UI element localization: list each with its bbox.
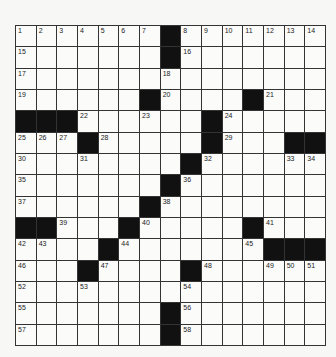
grid-cell[interactable]: 36 [181,175,201,195]
grid-cell[interactable]: 17 [16,69,36,89]
grid-cell[interactable] [99,303,119,323]
grid-cell[interactable] [223,218,243,238]
grid-cell[interactable]: 44 [119,239,139,259]
grid-cell[interactable] [202,197,222,217]
grid-cell[interactable]: 57 [16,325,36,345]
grid-cell[interactable] [161,261,181,281]
grid-cell[interactable] [305,282,325,302]
grid-cell[interactable] [285,303,305,323]
grid-cell[interactable] [140,282,160,302]
grid-cell[interactable] [78,197,98,217]
grid-cell[interactable]: 25 [16,133,36,153]
grid-cell[interactable]: 30 [16,154,36,174]
grid-cell[interactable] [78,239,98,259]
grid-cell[interactable] [264,282,284,302]
grid-cell[interactable] [140,69,160,89]
grid-cell[interactable]: 29 [223,133,243,153]
grid-cell[interactable] [99,218,119,238]
grid-cell[interactable] [305,69,325,89]
grid-cell[interactable] [140,303,160,323]
grid-cell[interactable]: 1 [16,26,36,46]
grid-cell[interactable]: 33 [285,154,305,174]
grid-cell[interactable]: 23 [140,111,160,131]
grid-cell[interactable] [78,303,98,323]
grid-cell[interactable]: 28 [99,133,119,153]
grid-cell[interactable] [223,282,243,302]
grid-cell[interactable]: 7 [140,26,160,46]
grid-cell[interactable]: 5 [99,26,119,46]
grid-cell[interactable] [99,154,119,174]
grid-cell[interactable] [140,133,160,153]
grid-cell[interactable] [119,154,139,174]
grid-cell[interactable] [264,69,284,89]
grid-cell[interactable] [99,197,119,217]
grid-cell[interactable] [37,303,57,323]
grid-cell[interactable] [57,325,77,345]
grid-cell[interactable] [119,47,139,67]
grid-cell[interactable] [37,69,57,89]
grid-cell[interactable] [78,69,98,89]
grid-cell[interactable] [243,325,263,345]
grid-cell[interactable] [181,197,201,217]
grid-cell[interactable] [223,325,243,345]
grid-cell[interactable]: 58 [181,325,201,345]
grid-cell[interactable] [264,303,284,323]
grid-cell[interactable] [264,111,284,131]
grid-cell[interactable]: 37 [16,197,36,217]
grid-cell[interactable] [202,175,222,195]
grid-cell[interactable] [181,133,201,153]
grid-cell[interactable] [99,90,119,110]
grid-cell[interactable] [223,261,243,281]
grid-cell[interactable] [223,47,243,67]
grid-cell[interactable] [99,111,119,131]
grid-cell[interactable]: 26 [37,133,57,153]
grid-cell[interactable] [223,197,243,217]
grid-cell[interactable] [223,90,243,110]
grid-cell[interactable] [161,239,181,259]
grid-cell[interactable] [119,261,139,281]
grid-cell[interactable] [305,218,325,238]
grid-cell[interactable] [57,47,77,67]
grid-cell[interactable] [285,325,305,345]
grid-cell[interactable]: 19 [16,90,36,110]
grid-cell[interactable]: 2 [37,26,57,46]
grid-cell[interactable]: 52 [16,282,36,302]
grid-cell[interactable] [119,90,139,110]
grid-cell[interactable]: 48 [202,261,222,281]
grid-cell[interactable] [57,303,77,323]
grid-cell[interactable] [161,282,181,302]
grid-cell[interactable] [37,175,57,195]
grid-cell[interactable] [78,325,98,345]
grid-cell[interactable] [243,261,263,281]
grid-cell[interactable] [161,154,181,174]
grid-cell[interactable] [305,175,325,195]
grid-cell[interactable] [285,282,305,302]
grid-cell[interactable] [78,47,98,67]
grid-cell[interactable] [161,218,181,238]
grid-cell[interactable] [264,154,284,174]
grid-cell[interactable]: 56 [181,303,201,323]
grid-cell[interactable] [140,239,160,259]
grid-cell[interactable] [181,69,201,89]
grid-cell[interactable]: 34 [305,154,325,174]
grid-cell[interactable] [285,90,305,110]
grid-cell[interactable]: 54 [181,282,201,302]
grid-cell[interactable] [181,111,201,131]
grid-cell[interactable] [119,325,139,345]
grid-cell[interactable]: 11 [243,26,263,46]
grid-cell[interactable] [285,218,305,238]
grid-cell[interactable]: 40 [140,218,160,238]
grid-cell[interactable]: 10 [223,26,243,46]
grid-cell[interactable]: 50 [285,261,305,281]
grid-cell[interactable] [99,47,119,67]
grid-cell[interactable] [119,175,139,195]
grid-cell[interactable] [99,325,119,345]
grid-cell[interactable] [305,90,325,110]
grid-cell[interactable] [140,261,160,281]
grid-cell[interactable] [99,175,119,195]
grid-cell[interactable] [264,133,284,153]
grid-cell[interactable] [243,175,263,195]
grid-cell[interactable] [57,175,77,195]
grid-cell[interactable] [305,325,325,345]
grid-cell[interactable] [223,239,243,259]
